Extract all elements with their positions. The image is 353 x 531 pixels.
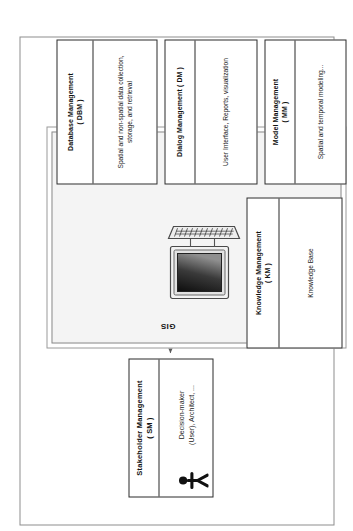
dialog-management-title: Dialog Management ( DM ) [165,40,195,183]
gis-label: GIS [160,321,175,330]
figure-stage: Stakeholder Management ( SM ) Decision-m… [0,0,353,531]
outer-frame: Stakeholder Management ( SM ) Decision-m… [19,36,334,525]
dialog-management-body: User Interface, Reports, visualization [195,40,256,183]
diagram-canvas: Stakeholder Management ( SM ) Decision-m… [0,0,353,531]
stakeholder-caption-line2: (User), Architect, ... [187,385,194,445]
stakeholder-body: Decision-maker (User), Architect, ... [159,359,212,496]
dbm-title-line2: ( DBM ) [75,99,82,124]
person-icon [178,470,208,490]
knowledge-management-body: Knowledge Base [279,198,341,347]
stakeholder-caption-line1: Decision-maker [177,390,184,439]
mm-title-line2: ( MM ) [280,101,287,122]
stakeholder-title-line2: ( SM ) [144,417,153,439]
model-management-title: Model Management ( MM ) [265,40,295,183]
km-title-line2: ( KM ) [263,262,270,282]
mm-title-line1: Model Management [271,78,278,145]
stakeholder-title-line1: Stakeholder Management [134,380,143,475]
database-management-box[interactable]: Database Management ( DBM ) Spatial and … [56,39,157,184]
dialog-management-box[interactable]: Dialog Management ( DM ) User Interface,… [164,39,257,184]
dbm-title-line1: Database Management [66,73,73,151]
stakeholder-management-box[interactable]: Stakeholder Management ( SM ) Decision-m… [128,358,213,497]
stakeholder-caption: Decision-maker (User), Architect, ... [176,385,195,445]
stakeholder-title: Stakeholder Management ( SM ) [129,359,159,496]
database-management-title: Database Management ( DBM ) [57,40,93,183]
desktop-computer-icon [162,224,242,300]
km-title-line1: Knowledge Management [254,230,261,314]
dm-title-line1: Dialog Management ( DM ) [175,67,184,157]
database-management-body: Spatial and non-spatial data collection,… [93,40,156,183]
knowledge-management-title: Knowledge Management ( KM ) [247,198,279,347]
model-management-body: Spatial and temporal modeling... [295,40,345,183]
knowledge-management-box[interactable]: Knowledge Management ( KM ) Knowledge Ba… [246,197,342,348]
model-management-box[interactable]: Model Management ( MM ) Spatial and temp… [264,39,346,184]
